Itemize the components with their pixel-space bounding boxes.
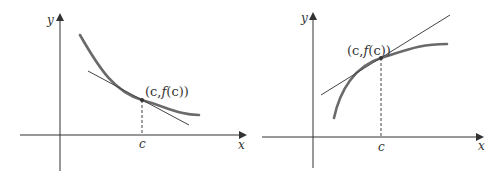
left-tick-label-c: c xyxy=(139,137,146,151)
left-panel: (c,f(c)) c x y xyxy=(20,13,245,171)
right-y-axis-label: y xyxy=(300,11,308,25)
right-tick-label-c: c xyxy=(378,140,385,154)
left-x-axis-label: x xyxy=(238,138,245,152)
right-point-label: (c,f(c)) xyxy=(347,43,391,58)
right-panel: (c,f(c)) c x y xyxy=(262,11,485,168)
left-point-label: (c,f(c)) xyxy=(145,84,189,99)
left-curve xyxy=(80,35,199,115)
left-tangent-point xyxy=(140,98,144,102)
left-y-axis-label: y xyxy=(46,13,54,27)
right-x-axis-label: x xyxy=(478,139,485,153)
diagram-canvas: (c,f(c)) c x y (c,f(c)) c x y xyxy=(0,0,496,179)
